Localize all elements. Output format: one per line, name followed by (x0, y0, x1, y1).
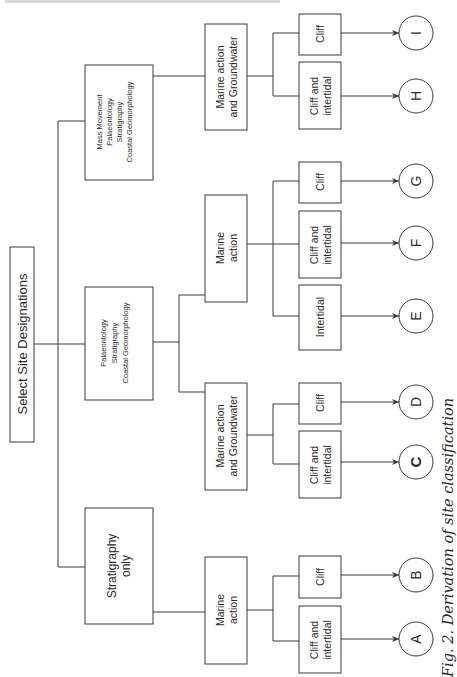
site-classification-diagram: Select Site Designations Mass Movement P… (0, 0, 457, 677)
node-line: Mass Movement (95, 94, 104, 150)
node-palaeontology: Palaeontology Stratigraphy Coastal Geomo… (85, 287, 153, 400)
outcome-label: H (408, 91, 424, 101)
node-line: Stratigraphy (105, 534, 119, 599)
node-line: action (227, 234, 239, 262)
outcome-a: A (399, 622, 433, 656)
outcome-label: I (408, 31, 424, 35)
leaf-label: Cliff and (308, 446, 320, 484)
outcome-label: A (408, 634, 424, 644)
leaf-label: Cliff (314, 394, 326, 412)
node-stratigraphy-only: Stratigraphy only (85, 508, 153, 624)
node-line: Palaeontology (105, 98, 114, 146)
node-mass-movement: Mass Movement Palaeontology Stratigraphy… (85, 65, 153, 180)
node-mass-marine-groundwater: Marine action and Groundwater (205, 24, 247, 130)
node-line: only (119, 555, 133, 577)
node-line: Coastal Geomorphology (125, 81, 134, 162)
leaf-label: Cliff and (308, 77, 320, 115)
outcome-g: G (399, 164, 433, 198)
node-line: Marine action (214, 45, 226, 108)
node-palaeo-marine-action: Marine action (205, 195, 247, 302)
leaf-label: Cliff (314, 568, 326, 586)
outcome-label: G (408, 176, 424, 187)
leaf-label: Intertidal (314, 297, 326, 337)
outcome-c: C (399, 445, 433, 479)
outcome-label: C (407, 456, 424, 467)
node-palaeo-marine-groundwater: Marine action and Groundwater (205, 383, 247, 490)
leaf-cliff-i: Cliff (299, 14, 341, 55)
leaf-intertidal-e: Intertidal (299, 285, 341, 350)
leaf-label: intertidal (321, 76, 333, 116)
leaf-cliff-g: Cliff (299, 162, 341, 203)
leaf-label: Cliff (314, 173, 326, 191)
node-strat-marine-action: Marine action (205, 557, 247, 664)
node-line: Stratigraphy (110, 323, 119, 364)
outcome-label: F (408, 239, 424, 248)
node-line: Palaeontology (99, 319, 108, 367)
leaf-cliff-intertidal-f: Cliff and intertidal (299, 211, 341, 278)
leaf-label: intertidal (321, 620, 333, 660)
leaf-label: Cliff and (308, 621, 320, 659)
leaf-cliff-intertidal-c: Cliff and intertidal (299, 431, 341, 498)
outcome-label: B (408, 570, 424, 579)
cropped-text-fragment (5, 0, 280, 3)
outcome-e: E (399, 299, 433, 333)
outcome-b: B (399, 558, 433, 592)
outcome-i: I (399, 16, 433, 50)
node-line: and Groundwater (227, 395, 239, 477)
outcome-label: D (408, 397, 424, 407)
leaf-label: intertidal (321, 445, 333, 485)
leaf-cliff-intertidal-a: Cliff and intertidal (299, 606, 341, 673)
node-line: and Groundwater (227, 36, 239, 118)
leaf-label: Cliff and (308, 226, 320, 264)
leaf-cliff-b: Cliff (299, 556, 341, 598)
leaf-label: Cliff (314, 25, 326, 43)
node-line: action (227, 596, 239, 624)
leaf-label: intertidal (321, 225, 333, 265)
outcome-d: D (399, 385, 433, 419)
leaf-cliff-intertidal-h: Cliff and intertidal (299, 62, 341, 129)
root-node: Select Site Designations (10, 247, 34, 442)
node-line: Marine (214, 594, 226, 626)
node-line: Marine action (214, 404, 226, 467)
node-line: Marine (214, 232, 226, 264)
outcome-label: E (408, 311, 424, 320)
leaf-cliff-d: Cliff (299, 383, 341, 424)
outcome-f: F (399, 226, 433, 260)
outcome-h: H (399, 79, 433, 113)
figure-caption: Fig. 2. Derivation of site classificatio… (440, 398, 456, 677)
root-label: Select Site Designations (15, 273, 30, 414)
node-line: Stratigraphy (115, 102, 124, 143)
node-line: Coastal Geomorphology (121, 302, 130, 383)
